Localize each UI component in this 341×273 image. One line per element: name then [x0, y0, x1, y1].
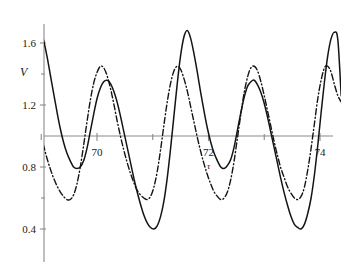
data-curve-dash-dot — [27, 66, 341, 200]
y-tick-label: 0.4 — [22, 223, 36, 235]
x-tick-label: 72 — [203, 146, 214, 158]
x-tick-label: 70 — [92, 146, 104, 158]
data-curve-solid — [27, 30, 341, 229]
chart-plot-area: 0.40.81.21.6707274Vτ — [0, 0, 341, 273]
x-tick-label: 74 — [315, 146, 327, 158]
y-tick-label: 1.6 — [22, 37, 36, 49]
data-curves-group — [27, 30, 341, 229]
y-tick-label: 1.2 — [22, 99, 36, 111]
y-axis-label: V — [20, 65, 29, 79]
x-axis-label: τ — [207, 161, 211, 171]
chart-container: 0.40.81.21.6707274Vτ — [0, 0, 341, 273]
y-tick-label: 0.8 — [22, 161, 36, 173]
